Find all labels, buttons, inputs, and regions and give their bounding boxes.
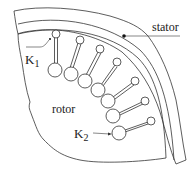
rotor-bars	[48, 30, 155, 140]
k1-subscript: 1	[34, 58, 39, 69]
stator-label: stator	[152, 21, 179, 33]
rotor-bar-3	[78, 45, 104, 88]
bar-bottom-1	[48, 63, 62, 77]
k2-arrowhead	[108, 133, 112, 136]
k1-leader	[26, 40, 49, 47]
k2-leader	[93, 133, 110, 134]
k1-main: K	[25, 52, 34, 67]
k1-label: K1	[25, 53, 39, 69]
rotor-bar-1	[48, 30, 62, 77]
stator-dot	[122, 34, 126, 38]
k2-subscript: 2	[83, 132, 88, 143]
rotor-label: rotor	[52, 103, 75, 115]
bar-top-1	[52, 30, 60, 38]
k1-dot	[49, 38, 51, 40]
rotor-outline	[18, 30, 166, 162]
rotor-bar-2	[64, 36, 84, 81]
k2-main: K	[74, 126, 83, 141]
k2-label: K2	[74, 127, 88, 143]
